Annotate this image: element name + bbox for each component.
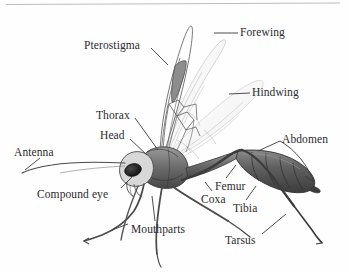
insect-anatomy-figure: Forewing Pterostigma Hindwing Thorax Hea… xyxy=(0,0,349,272)
leader-pterostigma xyxy=(151,48,168,65)
antenna-shape xyxy=(22,162,125,173)
abdomen-shape xyxy=(236,150,320,193)
leader-abdomen xyxy=(258,141,280,151)
leader-tibia xyxy=(246,186,256,200)
label-antenna: Antenna xyxy=(14,147,54,159)
leader-coxa xyxy=(205,182,212,191)
label-tibia: Tibia xyxy=(233,203,257,215)
label-coxa: Coxa xyxy=(201,194,226,206)
label-hindwing: Hindwing xyxy=(252,87,299,99)
leader-tarsus xyxy=(262,214,286,234)
label-pterostigma: Pterostigma xyxy=(84,40,140,52)
label-tarsus: Tarsus xyxy=(225,235,255,247)
label-thorax: Thorax xyxy=(96,110,130,122)
label-compound-eye: Compound eye xyxy=(37,189,108,201)
hindwing-shape xyxy=(170,80,263,160)
leader-thorax xyxy=(135,118,158,150)
label-head: Head xyxy=(100,130,125,142)
label-forewing: Forewing xyxy=(240,27,285,39)
leader-mouthparts xyxy=(152,196,155,221)
label-mouthparts: Mouthparts xyxy=(131,224,185,236)
leader-antenna xyxy=(25,158,40,170)
label-femur: Femur xyxy=(215,181,246,193)
leader-femur xyxy=(226,165,236,178)
label-abdomen: Abdomen xyxy=(282,134,328,146)
top-rule xyxy=(6,3,340,5)
